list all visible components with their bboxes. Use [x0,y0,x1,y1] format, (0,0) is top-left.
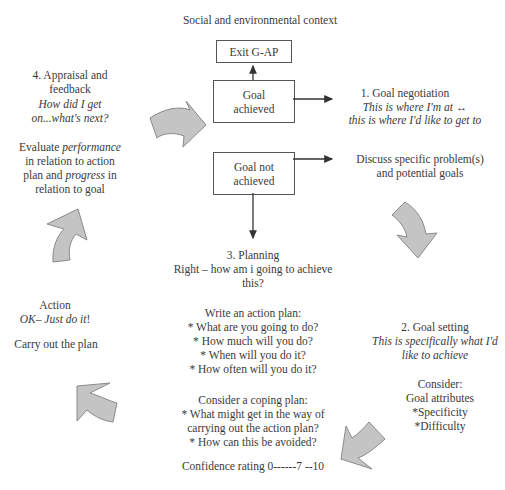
coping-plan-heading: Consider a coping plan: [185,393,321,407]
action-line: Carry out the plan [10,337,102,351]
action-plan-item: * What are you going to do? [180,320,326,334]
stage3-line1: Right – how am i going to achieve [173,262,333,276]
stage3-line2: this? [213,276,293,290]
discuss-line2: and potential goals [345,166,495,180]
coping-plan-item: * What might get in the way of [180,407,326,421]
action-heading: Action [25,298,85,312]
action-plan-heading: Write an action plan: [190,306,316,320]
stage2-heading: 2. Goal setting [390,320,480,334]
action-plan-item: * How often will you do it? [180,362,326,376]
cycle-arrow-appraisal-to-goal [150,101,206,147]
stage2-line1: This is specifically what I'd [370,334,500,348]
stage1-line2: this is where I'd like to get to [335,113,495,127]
consider-heading: Consider: [400,377,480,391]
stage4-question-line2: on...what's next? [20,111,120,125]
cycle-arrow-action-to-appraisal [47,209,87,262]
action-tagline-prefix: OK– [20,313,45,325]
consider-item-difficulty: *Difficulty [400,419,480,433]
consider-goal-attributes: Goal attributes [390,391,490,405]
stage2-line2: like to achieve [385,348,485,362]
eval-progress: progress [65,169,104,181]
action-tagline: OK– Just do it! [10,312,100,326]
confidence-rating: Confidence rating 0------7 --10 [180,459,326,473]
cycle-arrow-setting-to-planning [341,422,385,469]
eval-performance: performance [62,141,121,153]
action-plan-item: * When will you do it? [180,348,326,362]
consider-item-specificity: *Specificity [400,405,480,419]
eval-text: plan and [23,169,65,181]
coping-plan-item: * How can this be avoided? [180,435,326,449]
stage1-heading: 1. Goal negotiation [345,86,465,100]
cycle-arrow-negotiation-to-setting [392,202,437,258]
stage4-eval-line3: plan and progress in [10,168,130,182]
discuss-line1: Discuss specific problem(s) [345,152,495,166]
eval-text: in [105,169,117,181]
stage4-eval-line4: relation to goal [10,182,130,196]
stage4-heading-line1: 4. Appraisal and [20,68,120,82]
action-tagline-suffix: ! [86,313,90,325]
stage1-line1-text: This is where I'm at [363,101,453,113]
stage1-line1: This is where I'm at ↔ [345,100,485,114]
stage4-heading-line2: feedback [20,82,120,96]
cycle-arrow-planning-to-action [77,383,117,422]
eval-text: Evaluate [19,141,62,153]
stage4-eval-line1: Evaluate performance [10,140,130,154]
stage4-eval-line2: in relation to action [10,154,130,168]
action-tagline-italic: Just do it [44,313,86,325]
stage4-question-line1: How did I get [20,97,120,111]
bidirectional-arrow-icon: ↔ [456,101,468,113]
coping-plan-item: carrying out the action plan? [180,421,326,435]
stage3-heading: 3. Planning [213,248,293,262]
action-plan-item: * How much will you do? [180,334,326,348]
